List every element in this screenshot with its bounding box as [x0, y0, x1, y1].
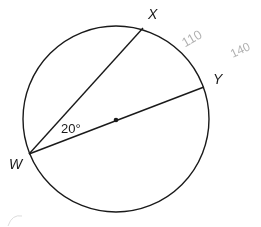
point-label-w: W: [9, 156, 24, 172]
pencil-arc-mark: [8, 216, 22, 226]
point-label-x: X: [147, 6, 158, 22]
point-label-y: Y: [213, 71, 224, 87]
circle-diagram: 110 140 W X Y 20°: [0, 0, 261, 227]
handwritten-note-140: 140: [228, 39, 252, 60]
handwritten-notes: 110 140: [8, 27, 253, 226]
angle-label: 20°: [61, 121, 81, 136]
center-point: [114, 118, 119, 123]
chord-wx: [29, 28, 143, 154]
handwritten-note-110: 110: [179, 27, 204, 50]
